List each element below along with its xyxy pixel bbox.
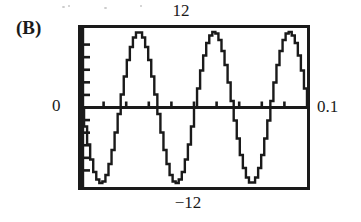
calculator-screen-frame [78,25,310,190]
origin-label: 0 [52,96,61,116]
figure-panel-b: (B) 12 −12 0 0.1 [0,0,361,222]
y-axis-min-label: −12 [175,193,202,213]
y-axis-max-label: 12 [173,1,190,21]
waveform-plot [81,28,307,187]
scan-artifact [140,5,142,7]
x-axis-max-label: 0.1 [317,97,338,117]
scan-artifact [68,5,70,7]
scan-artifact [104,7,107,9]
panel-label: (B) [16,17,41,39]
scan-artifact [62,6,65,8]
